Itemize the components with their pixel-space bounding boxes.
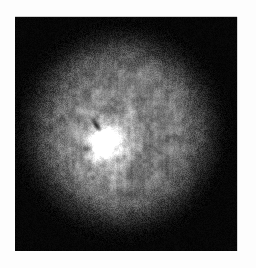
astronomical-image-panel — [15, 17, 237, 251]
figure-root — [0, 0, 256, 268]
sky-heatmap-canvas — [15, 17, 237, 251]
panel-right-edge — [237, 17, 238, 251]
